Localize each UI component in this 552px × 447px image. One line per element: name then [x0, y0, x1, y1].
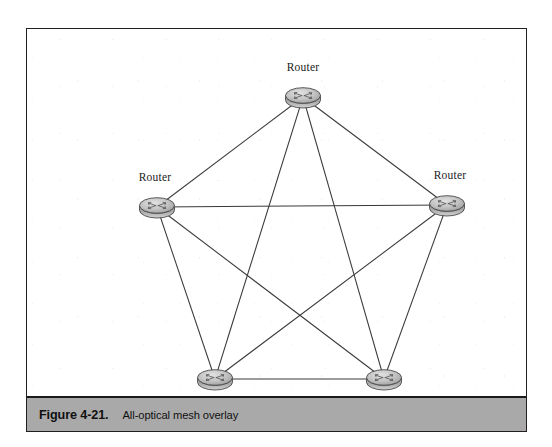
link-right-bottom-left	[215, 205, 447, 379]
router-label-top: Router	[287, 62, 320, 74]
figure-caption-bar: Figure 4-21. All-optical mesh overlay	[27, 396, 526, 431]
figure-caption-number: Figure 4-21.	[39, 408, 109, 422]
router-label-left: Router	[139, 172, 172, 184]
link-top-bottom-left	[215, 97, 303, 379]
router-node-left[interactable]	[140, 198, 175, 218]
link-left-bottom-right	[157, 207, 384, 379]
router-node-right[interactable]	[430, 196, 465, 216]
link-right-bottom-right	[384, 205, 447, 379]
router-label-right: Router	[434, 170, 467, 182]
figure-caption-text: All-optical mesh overlay	[123, 409, 239, 421]
mesh-topology-graphic	[27, 29, 526, 398]
router-node-bottom-right[interactable]	[367, 370, 402, 390]
link-left-bottom-left	[157, 207, 215, 379]
link-top-left	[157, 97, 303, 207]
link-top-bottom-right	[303, 97, 384, 379]
router-node-bottom-left[interactable]	[198, 370, 233, 390]
mesh-link-group	[157, 97, 447, 379]
diagram-canvas: Router Router Router Router Router	[27, 29, 526, 398]
router-node-group	[140, 88, 465, 390]
router-node-top[interactable]	[286, 88, 321, 108]
link-top-right	[303, 97, 447, 205]
figure-frame: Router Router Router Router Router Figur…	[26, 28, 527, 432]
link-left-right	[157, 205, 447, 207]
